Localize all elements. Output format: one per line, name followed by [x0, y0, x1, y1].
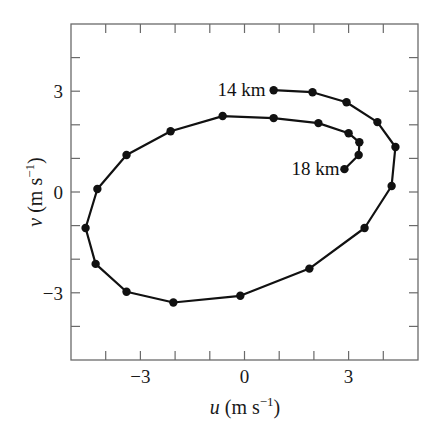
y-axis-var: v	[24, 218, 46, 227]
data-point	[122, 288, 130, 296]
data-point	[166, 127, 174, 135]
data-point	[314, 119, 322, 127]
x-axis-var: u	[210, 396, 220, 418]
x-tick-label: −3	[130, 366, 150, 387]
data-point	[169, 298, 177, 306]
data-point	[81, 224, 89, 232]
height-label: 18 km	[291, 158, 339, 179]
data-point	[360, 224, 368, 232]
y-tick-label: −3	[43, 283, 63, 304]
tick-labels: −30330−3	[43, 81, 354, 387]
hodograph-chart: −30330−3 14 km18 km u(m s−1) v(m s−1)	[0, 0, 442, 433]
y-axis-sup: −1	[22, 164, 37, 178]
y-tick-label: 3	[54, 81, 64, 102]
data-point	[391, 143, 399, 151]
y-tick-label: 0	[54, 182, 64, 203]
x-axis-close: )	[274, 396, 281, 419]
y-axis-label: v(m s−1)	[22, 157, 47, 226]
data-point	[308, 88, 316, 96]
height-label: 14 km	[218, 79, 266, 100]
data-point	[373, 118, 381, 126]
y-axis-unit: (m s	[24, 178, 47, 213]
y-axis-close: )	[24, 157, 47, 164]
data-point	[91, 260, 99, 268]
x-axis-unit: (m s	[225, 396, 260, 419]
data-point	[354, 151, 362, 159]
x-tick-label: 0	[240, 366, 250, 387]
data-point	[344, 129, 352, 137]
x-axis-label: u(m s−1)	[210, 394, 281, 419]
data-point	[218, 112, 226, 120]
data-point	[236, 292, 244, 300]
plot-frame	[71, 24, 418, 360]
data-point	[355, 138, 363, 146]
x-axis-sup: −1	[260, 394, 274, 409]
data-point	[93, 185, 101, 193]
data-point	[269, 86, 277, 94]
axis-ticks	[71, 24, 418, 360]
data-point	[122, 151, 130, 159]
data-point	[387, 182, 395, 190]
data-point	[305, 264, 313, 272]
x-tick-label: 3	[344, 366, 354, 387]
data-point	[340, 165, 348, 173]
hodograph-line	[86, 90, 396, 302]
data-point	[342, 98, 350, 106]
data-point	[269, 114, 277, 122]
data-markers	[81, 86, 399, 307]
